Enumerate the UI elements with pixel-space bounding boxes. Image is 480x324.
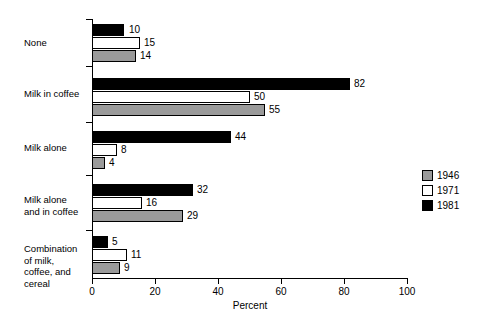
x-axis-tick [218, 279, 219, 284]
y-axis-tick [86, 230, 92, 231]
bar-value-milk-alone-1971: 8 [121, 144, 127, 156]
category-label-milk-alone: Milk alone [24, 142, 90, 154]
bar-milk-in-coffee-1971 [92, 91, 250, 103]
bar-milk-alone-1946 [92, 157, 105, 169]
bar-milk-alone-and-in-coffee-1946 [92, 210, 183, 222]
bar-value-milk-alone-and-in-coffee-1981: 32 [197, 184, 208, 196]
bar-value-milk-in-coffee-1981: 82 [354, 78, 365, 90]
legend-swatch-icon-1971 [422, 185, 433, 196]
legend-swatch-icon-1946 [422, 170, 433, 181]
x-tick-label-20: 20 [140, 286, 170, 297]
category-label-line: and in coffee [24, 206, 90, 218]
bar-combination-1981 [92, 236, 108, 248]
legend-label-1971: 1971 [437, 185, 459, 196]
x-tick-label-80: 80 [329, 286, 359, 297]
x-axis-tick [92, 279, 93, 284]
bar-value-combination-1971: 11 [131, 249, 141, 261]
bar-value-milk-alone-and-in-coffee-1971: 16 [146, 197, 157, 209]
bar-milk-alone-1981 [92, 131, 231, 143]
bar-milk-alone-and-in-coffee-1971 [92, 197, 142, 209]
category-label-milk-alone-and-in-coffee: Milk alone and in coffee [24, 194, 90, 217]
bar-value-none-1981: 10 [129, 24, 140, 36]
legend: 1946 1971 1981 [422, 169, 459, 214]
legend-swatch-icon-1981 [422, 200, 433, 211]
y-axis-tick [86, 66, 92, 67]
category-label-line: Milk in coffee [24, 88, 90, 100]
x-tick-label-100: 100 [392, 286, 422, 297]
bar-value-milk-alone-1981: 44 [235, 131, 246, 143]
x-tick-label-40: 40 [203, 286, 233, 297]
bar-combination-1946 [92, 262, 120, 274]
legend-label-1981: 1981 [437, 200, 459, 211]
x-axis-tick [344, 279, 345, 284]
bar-value-none-1946: 14 [140, 50, 151, 62]
category-label-milk-in-coffee: Milk in coffee [24, 88, 90, 100]
legend-item-1971: 1971 [422, 184, 459, 197]
bar-milk-in-coffee-1981 [92, 78, 350, 90]
category-label-line: Milk alone [24, 194, 90, 206]
x-axis-title: Percent [92, 300, 408, 311]
category-label-line: of milk, [24, 255, 90, 267]
y-axis-tick [86, 175, 92, 176]
category-label-line: coffee, and [24, 266, 90, 278]
bar-chart: 0 20 40 60 80 100 Percent None Milk in c… [0, 0, 480, 324]
bar-value-none-1971: 15 [144, 37, 155, 49]
legend-label-1946: 1946 [437, 170, 459, 181]
legend-item-1946: 1946 [422, 169, 459, 182]
bar-value-milk-alone-and-in-coffee-1946: 29 [187, 210, 198, 222]
bar-value-milk-in-coffee-1946: 55 [269, 104, 280, 116]
bar-none-1946 [92, 50, 136, 62]
category-label-none: None [24, 37, 90, 49]
bar-combination-1971 [92, 249, 127, 261]
category-label-combination: Combination of milk, coffee, and cereal [24, 243, 90, 289]
bar-none-1981 [92, 24, 124, 36]
bar-milk-in-coffee-1946 [92, 104, 265, 116]
category-label-line: cereal [24, 278, 90, 290]
x-tick-label-60: 60 [266, 286, 296, 297]
y-axis-tick [86, 122, 92, 123]
bar-value-milk-alone-1946: 4 [109, 157, 115, 169]
category-label-line: None [24, 37, 90, 49]
bar-milk-alone-1971 [92, 144, 117, 156]
category-label-line: Combination [24, 243, 90, 255]
bar-value-combination-1946: 9 [124, 262, 130, 274]
bar-milk-alone-and-in-coffee-1981 [92, 184, 193, 196]
legend-item-1981: 1981 [422, 199, 459, 212]
y-axis-tick [86, 19, 92, 20]
bar-none-1971 [92, 37, 140, 49]
x-axis-tick [155, 279, 156, 284]
x-axis-line [92, 278, 408, 279]
bar-value-combination-1981: 5 [112, 236, 118, 248]
bar-value-milk-in-coffee-1971: 50 [254, 91, 265, 103]
category-label-line: Milk alone [24, 142, 90, 154]
x-axis-tick [407, 279, 408, 284]
x-axis-tick [281, 279, 282, 284]
